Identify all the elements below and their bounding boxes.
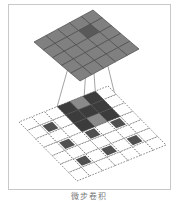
input-lattice xyxy=(19,86,166,181)
output-grid xyxy=(34,10,139,81)
transposed-convolution-diagram xyxy=(0,0,178,203)
figure-caption: 微步卷积 xyxy=(0,191,178,202)
